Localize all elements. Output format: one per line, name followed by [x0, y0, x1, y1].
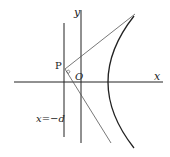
origin-label: O [75, 72, 83, 82]
tangent-line-upper [65, 14, 135, 69]
y-axis-label: y [74, 7, 80, 18]
directrix-label: x=−d [36, 114, 65, 124]
tangent-line-lower [65, 69, 111, 143]
x-axis-label: x [154, 71, 160, 82]
point-p-label: P [55, 61, 62, 71]
diagram-svg [0, 0, 170, 157]
diagram-canvas: y x P O x=−d [0, 0, 170, 157]
